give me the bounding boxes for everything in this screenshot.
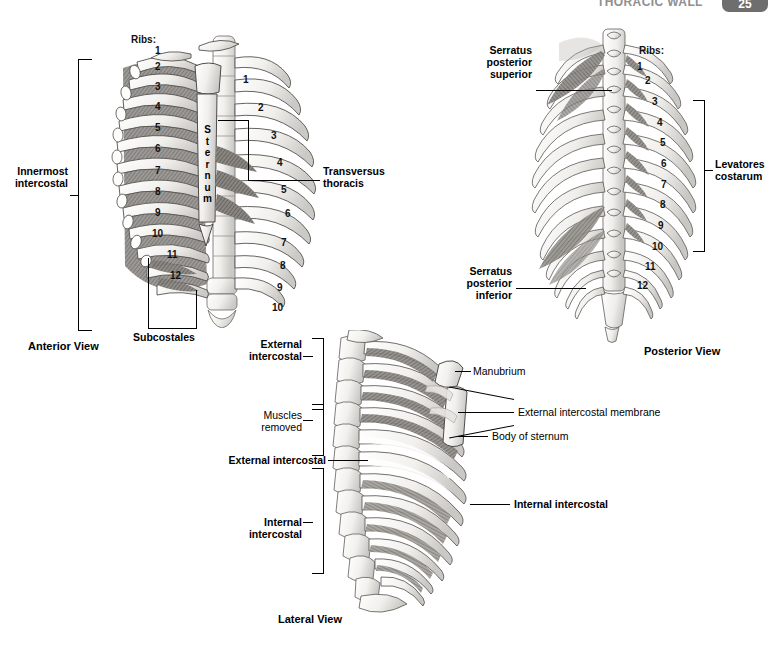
lateral-external-intercostal-bracket bbox=[312, 338, 324, 410]
right-ribs bbox=[235, 57, 316, 307]
anterior-inner-rib-number-8: 8 bbox=[280, 261, 286, 271]
anterior-inner-rib-number-2: 2 bbox=[258, 103, 264, 113]
sternum-letter: e bbox=[202, 147, 213, 159]
anterior-rib-number-7: 7 bbox=[155, 166, 161, 176]
posterior-rib-number-2: 2 bbox=[645, 76, 651, 86]
posterior-rib-number-5: 5 bbox=[660, 138, 666, 148]
anterior-inner-rib-number-7: 7 bbox=[281, 238, 287, 248]
muscles-removed-leader bbox=[303, 420, 313, 421]
sternum-letter: m bbox=[202, 193, 213, 205]
anterior-rib-number-4: 4 bbox=[155, 102, 161, 112]
subcostales-leader-left bbox=[148, 258, 149, 328]
anterior-rib-number-8: 8 bbox=[155, 187, 161, 197]
label-serratus-posterior-inferior: Serratus posterior inferior bbox=[440, 265, 512, 301]
levatores-costarum-bracket bbox=[693, 100, 705, 252]
lateral-external-intercostal-bracket-leader bbox=[303, 356, 313, 357]
transversus-thoracis-leader bbox=[248, 180, 320, 181]
external-intercostal-leader-line bbox=[328, 460, 368, 461]
label-serratus-posterior-superior: Serratus posterior superior bbox=[460, 44, 532, 80]
transversus-thoracis-leader-tip bbox=[218, 120, 249, 121]
lateral-internal-intercostal-bracket bbox=[312, 468, 324, 574]
sternum-letter: u bbox=[202, 182, 213, 194]
subcostales-leader-right bbox=[196, 290, 197, 328]
serratus-posterior-inferior-leader bbox=[516, 288, 586, 289]
page-header: THORACIC WALL 25 bbox=[0, 0, 777, 13]
levatores-costarum-leader bbox=[705, 170, 713, 171]
anterior-inner-rib-number-3: 3 bbox=[271, 131, 277, 141]
body-of-sternum-leader bbox=[458, 436, 488, 437]
anterior-inner-rib-number-6: 6 bbox=[285, 209, 291, 219]
posterior-rib-number-3: 3 bbox=[652, 97, 658, 107]
posterior-view-figure bbox=[515, 25, 715, 345]
anterior-view-caption: Anterior View bbox=[28, 340, 99, 352]
manubrium-bone bbox=[435, 361, 463, 388]
anterior-rib-number-2: 2 bbox=[155, 62, 161, 72]
anterior-rib-number-3: 3 bbox=[155, 82, 161, 92]
label-external-intercostal-leader: External intercostal bbox=[222, 454, 326, 466]
posterior-ribs-header: Ribs: bbox=[639, 45, 664, 56]
label-manubrium: Manubrium bbox=[473, 365, 563, 377]
innermost-intercostal-bracket bbox=[78, 59, 92, 331]
anterior-inner-rib-number-10: 10 bbox=[272, 303, 283, 313]
innermost-intercostal-leader bbox=[70, 195, 79, 196]
subcostales-leader-base bbox=[148, 328, 197, 329]
external-intercostal-membrane-leader bbox=[458, 412, 514, 413]
anterior-inner-rib-number-9: 9 bbox=[277, 283, 283, 293]
label-external-intercostal-upper: External intercostal bbox=[232, 338, 302, 362]
posterior-rib-number-10: 10 bbox=[652, 242, 663, 252]
posterior-rib-number-4: 4 bbox=[657, 118, 663, 128]
posterior-rib-number-7: 7 bbox=[661, 180, 667, 190]
label-external-intercostal-membrane: External intercostal membrane bbox=[518, 406, 668, 418]
posterior-rib-number-12: 12 bbox=[637, 281, 648, 291]
sternum-letter: r bbox=[202, 159, 213, 171]
anterior-rib-number-10: 10 bbox=[152, 229, 163, 239]
lumbar-spine-stub bbox=[207, 278, 237, 328]
sternum-letter: n bbox=[202, 170, 213, 182]
anterior-rib-number-6: 6 bbox=[155, 144, 161, 154]
lateral-upper-bone-stubs bbox=[347, 330, 383, 343]
lateral-view-caption: Lateral View bbox=[278, 613, 342, 625]
label-subcostales: Subcostales bbox=[133, 331, 223, 343]
posterior-rib-number-1: 1 bbox=[637, 62, 643, 72]
anterior-rib-number-11: 11 bbox=[167, 250, 178, 260]
posterior-vertebral-column bbox=[601, 29, 627, 343]
anterior-ribs-header: Ribs: bbox=[131, 34, 156, 45]
label-levatores-costarum: Levatores costarum bbox=[715, 158, 777, 182]
sternum-letter: t bbox=[202, 136, 213, 148]
posterior-rib-number-6: 6 bbox=[661, 159, 667, 169]
anterior-inner-rib-number-4: 4 bbox=[277, 158, 283, 168]
posterior-rib-number-11: 11 bbox=[645, 262, 656, 272]
label-innermost-intercostal: Innermost intercostal bbox=[0, 165, 68, 189]
internal-intercostal-right-leader bbox=[470, 504, 510, 505]
posterior-view-caption: Posterior View bbox=[644, 345, 720, 357]
serratus-posterior-superior-leader bbox=[536, 90, 612, 91]
posterior-ribcage-illustration bbox=[515, 25, 715, 345]
sternum-letter: S bbox=[202, 124, 213, 136]
lateral-internal-intercostal-bracket-leader bbox=[303, 522, 313, 523]
page-number-tab: 25 bbox=[722, 0, 768, 12]
label-transversus-thoracis: Transversus thoracis bbox=[323, 165, 413, 189]
label-body-of-sternum: Body of sternum bbox=[492, 430, 602, 442]
muscles-removed-bracket bbox=[312, 404, 324, 456]
posterior-rib-number-8: 8 bbox=[660, 200, 666, 210]
anatomy-page: THORACIC WALL 25 bbox=[0, 0, 777, 649]
label-muscles-removed: Muscles removed bbox=[240, 409, 302, 433]
transversus-thoracis-leader-riser bbox=[248, 120, 249, 181]
anterior-rib-number-5: 5 bbox=[155, 123, 161, 133]
manubrium-leader bbox=[455, 371, 471, 372]
anterior-inner-rib-number-1: 1 bbox=[243, 75, 249, 85]
label-internal-intercostal-lower: Internal intercostal bbox=[232, 516, 302, 540]
posterior-rib-number-9: 9 bbox=[658, 221, 664, 231]
label-sternum: S t e r n u m bbox=[202, 124, 213, 205]
anterior-rib-number-1: 1 bbox=[155, 46, 161, 56]
anterior-rib-number-9: 9 bbox=[155, 208, 161, 218]
anterior-rib-number-12: 12 bbox=[170, 271, 181, 281]
anterior-inner-rib-number-5: 5 bbox=[281, 185, 287, 195]
lateral-lower-bone-stub bbox=[359, 594, 407, 612]
label-internal-intercostal-right: Internal intercostal bbox=[514, 498, 654, 510]
page-title: THORACIC WALL bbox=[597, 0, 703, 9]
